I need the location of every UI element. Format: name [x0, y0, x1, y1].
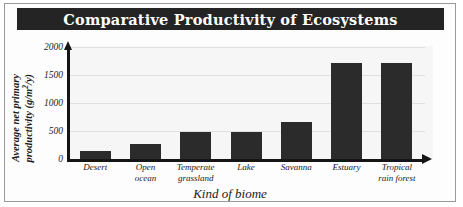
y-axis-unit-exponent: 2 — [21, 84, 30, 88]
bar — [180, 132, 211, 159]
y-axis-tick-label: 2000 — [44, 42, 63, 52]
x-axis-category-label-line: Tropical — [366, 162, 428, 173]
y-axis-tick-label: 1000 — [44, 98, 63, 108]
y-axis-line — [67, 47, 70, 159]
plot-area: 0500100015002000 — [67, 44, 433, 160]
x-axis-title: Kind of biome — [5, 186, 455, 202]
y-axis-arrow-icon — [64, 41, 72, 50]
chart-title-bar: Comparative Productivity of Ecosystems — [17, 8, 444, 30]
y-axis-unit-prefix: productivity (g/m — [23, 88, 34, 162]
bar — [381, 63, 412, 159]
x-axis-category-labels: DesertOpenoceanTemperategrasslandLakeSav… — [70, 162, 422, 188]
y-axis-title-line-2: productivity (g/m2/y) — [21, 73, 35, 162]
bar — [231, 132, 262, 159]
bar — [331, 63, 362, 159]
bar-series — [70, 44, 422, 159]
y-axis-unit-suffix: /y) — [23, 73, 34, 84]
x-axis-category-label-line: grassland — [165, 173, 227, 184]
y-axis-title-line-1: Average net primary — [10, 74, 21, 162]
bar — [80, 151, 111, 159]
x-axis-category-label: Tropicalrain forest — [366, 162, 428, 183]
bar — [281, 122, 312, 160]
chart-figure: Comparative Productivity of Ecosystems A… — [4, 3, 456, 202]
bar — [130, 144, 161, 159]
y-axis-tick-label: 0 — [58, 154, 63, 164]
x-axis-category-label-line: rain forest — [366, 173, 428, 184]
page-title: Comparative Productivity of Ecosystems — [63, 11, 397, 28]
y-axis-tick-label: 500 — [49, 126, 63, 136]
y-axis-tick-label: 1500 — [44, 70, 63, 80]
